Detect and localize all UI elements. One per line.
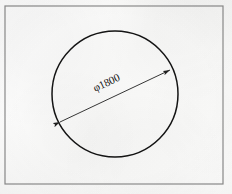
- drawing-page: φ1800: [0, 0, 232, 194]
- circle-outline: [52, 31, 178, 157]
- technical-drawing-svg: φ1800: [0, 0, 232, 194]
- drawing-canvas: φ1800: [0, 0, 232, 194]
- diameter-dimension-label: φ1800: [91, 71, 122, 94]
